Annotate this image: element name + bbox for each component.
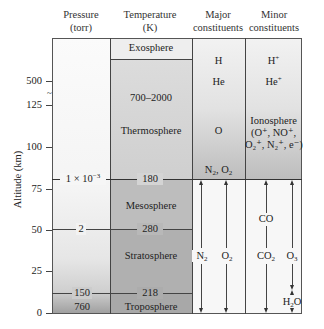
ytick-mark-25 [46, 271, 52, 272]
mesosphere-label: Mesosphere [110, 200, 192, 212]
major-n2-o2-upper: N2, O2 [192, 164, 245, 176]
header-major-line1: Major [190, 8, 246, 21]
co-co2-line [266, 226, 267, 248]
pressure-0km: 760 [72, 301, 92, 313]
o2-arrow-up-icon [224, 180, 228, 185]
line-50km [52, 229, 192, 230]
major-he: He [192, 76, 245, 88]
minor-he-plus: He+ [245, 76, 302, 88]
co2-arrow-line-bottom [266, 264, 267, 308]
ytick-mark-50 [46, 230, 52, 231]
co-arrow-up-icon [264, 180, 268, 185]
y-axis-label: Altitude (km) [12, 145, 23, 215]
major-h: H [192, 55, 245, 67]
header-temperature-line1: Temperature [108, 8, 192, 21]
pressure-50km: 2 [76, 223, 86, 235]
co2-sub: 2 [272, 255, 276, 263]
n2-arrow-up-icon [199, 180, 203, 185]
minor-o3: O3 [283, 250, 301, 262]
o2-arrow-line-bottom [226, 264, 227, 308]
major-n2: N2 [192, 250, 212, 262]
he-plus-sup: + [278, 75, 282, 83]
h2o-arrow-up-icon [290, 290, 294, 295]
header-minor: Minor constituents [244, 8, 304, 34]
n2-base: N [196, 250, 204, 261]
n2-arrow-down-icon [199, 308, 203, 313]
h2o-arrow-down-icon [290, 308, 294, 313]
minor-co2: CO2 [253, 250, 279, 262]
o2-base: O [221, 250, 229, 261]
o2-sub: 2 [229, 255, 233, 263]
header-pressure: Pressure (torr) [52, 8, 110, 34]
temp-12km: 218 [137, 287, 163, 299]
pressure-12km: 150 [72, 287, 92, 299]
header-pressure-line1: Pressure [52, 8, 110, 21]
n2o2-o: , O [216, 164, 229, 175]
pressure-80km-exp: −3 [93, 172, 100, 180]
temp-50km: 280 [137, 223, 163, 235]
ytick-0: 0 [12, 308, 42, 318]
o3-base: O [286, 250, 294, 261]
ytick-mark-500 [46, 81, 52, 82]
ytick-500: 500 [12, 76, 42, 86]
ionosphere-label: Ionosphere [245, 115, 302, 127]
ytick-50: 50 [12, 225, 42, 235]
ions-line2: O₂⁺, N₂⁺, e⁻) [245, 139, 302, 151]
thermosphere-label: Thermosphere [110, 125, 192, 137]
ytick-75: 75 [12, 184, 42, 194]
header-major: Major constituents [190, 8, 246, 34]
minor-co: CO [255, 213, 277, 225]
header-pressure-line2: (torr) [52, 21, 110, 34]
minor-h-plus: H+ [245, 55, 302, 67]
header-temperature-line2: (K) [108, 21, 192, 34]
pressure-80km: 1 × 10−3 [60, 173, 106, 185]
exosphere-line [110, 59, 192, 60]
pressure-80km-base: 1 × 10 [66, 173, 93, 184]
major-o2: O2 [217, 250, 237, 262]
header-minor-line2: constituents [244, 21, 304, 34]
n2-arrow-line-top [201, 183, 202, 248]
o2-arrow-down-icon [224, 308, 228, 313]
ytick-mark-0 [46, 313, 52, 314]
divider-1 [110, 38, 111, 314]
header-major-line2: constituents [190, 21, 246, 34]
o3-arrow-line-bottom [292, 264, 293, 287]
o3-sub: 3 [294, 255, 298, 263]
h-plus-sup: + [275, 54, 279, 62]
ytick-25: 25 [12, 266, 42, 276]
co-arrow-line-top [266, 183, 267, 213]
header-minor-line1: Minor [244, 8, 304, 21]
stratosphere-label: Stratosphere [110, 250, 192, 262]
minor-h2o: H2O [280, 296, 304, 308]
thermo-range-label: 700–2000 [110, 92, 192, 104]
ytick-mark-125 [46, 105, 52, 106]
he-plus-base: He [265, 76, 277, 87]
co2-base: CO [257, 250, 272, 261]
n2o2-sub2: 2 [229, 169, 233, 177]
co2-arrow-down-icon [264, 308, 268, 313]
temp-80km: 180 [137, 173, 163, 185]
n2-sub: 2 [204, 255, 208, 263]
ytick-mark-100 [46, 147, 52, 148]
exosphere-label: Exosphere [110, 42, 192, 54]
troposphere-label: Troposphere [110, 301, 192, 313]
axis-break-icon: ~ [47, 89, 52, 98]
header-temperature: Temperature (K) [108, 8, 192, 34]
o2-arrow-line-top [226, 183, 227, 248]
major-o: O [192, 125, 245, 137]
ytick-mark-75 [46, 189, 52, 190]
ions-line1: (O⁺, NO⁺, [245, 127, 302, 139]
n2-arrow-line-bottom [201, 264, 202, 308]
o3-arrow-up-icon [290, 180, 294, 185]
h2o-o: O [294, 296, 302, 307]
ytick-100: 100 [12, 142, 42, 152]
ytick-125: 125 [12, 100, 42, 110]
o3-arrow-line-top [292, 183, 293, 248]
